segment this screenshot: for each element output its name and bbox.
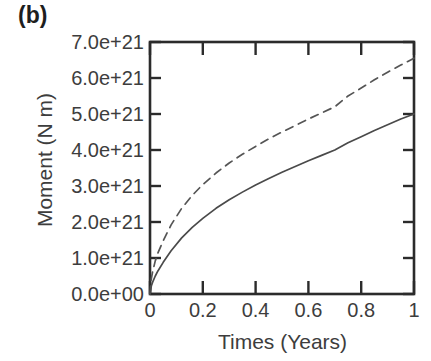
plot-area [0, 0, 431, 361]
figure-panel-b: (b) Moment (N m) Times (Years) 0.0e+001.… [0, 0, 431, 361]
dashed-curve [150, 58, 414, 294]
solid-curve [150, 114, 414, 294]
data-curves [150, 58, 414, 294]
